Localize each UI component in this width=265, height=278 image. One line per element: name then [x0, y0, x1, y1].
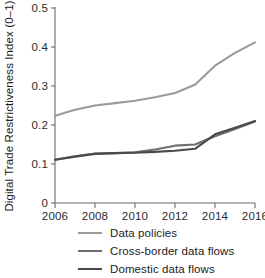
x-tick-label: 2010 [122, 210, 148, 222]
legend-item: Cross-border data flows [0, 242, 265, 260]
y-tick-label: 0.5 [31, 2, 48, 14]
y-tick-label: 0.1 [31, 158, 48, 170]
chart-legend: Data policiesCross-border data flowsDome… [0, 224, 265, 278]
legend-swatch-icon [78, 268, 102, 270]
legend-swatch-icon [78, 232, 102, 234]
series-line [55, 121, 255, 159]
chart-figure: 00.10.20.30.40.5 20062008201020122014201… [0, 0, 265, 278]
legend-swatch-icon [78, 250, 102, 252]
x-tick-label: 2006 [42, 210, 68, 222]
line-chart-plot: 00.10.20.30.40.5 20062008201020122014201… [0, 0, 265, 224]
y-tick-label: 0.3 [31, 80, 48, 92]
x-axis: 200620082010201220142016 [42, 203, 265, 222]
legend-label: Cross-border data flows [110, 245, 234, 257]
y-tick-label: 0.4 [31, 41, 48, 53]
x-tick-label: 2014 [202, 210, 229, 222]
series-line [55, 42, 255, 115]
y-axis: 00.10.20.30.40.5 [31, 2, 55, 209]
x-tick-label: 2008 [82, 210, 108, 222]
legend-label: Data policies [110, 227, 177, 239]
series-layer [55, 42, 255, 159]
y-tick-label: 0 [41, 197, 48, 209]
y-tick-label: 0.2 [31, 119, 48, 131]
x-tick-label: 2012 [162, 210, 188, 222]
legend-item: Domestic data flows [0, 260, 265, 278]
y-axis-title: Digital Trade Restrictiveness Index (0–1… [3, 0, 15, 211]
x-tick-label: 2016 [242, 210, 265, 222]
legend-item: Data policies [0, 224, 265, 242]
legend-label: Domestic data flows [110, 263, 215, 275]
